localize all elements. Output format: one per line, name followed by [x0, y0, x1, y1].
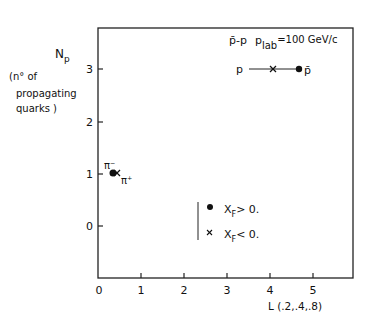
chart-title: p̄-pplab=100 GeV/c	[229, 34, 337, 51]
pi-plus-label: π⁺	[121, 175, 132, 186]
y-tick-0: 0	[86, 220, 93, 233]
y-axis-label: Np	[55, 47, 70, 64]
y-label-note-3: quarks )	[16, 103, 57, 114]
chart: 3 2 1 0 0 1 2 3 4 5 L (.2,.4,.8) Np (n° …	[0, 0, 369, 324]
legend-item-xf-neg: XF< 0.	[224, 228, 259, 244]
x-tick-2: 2	[181, 284, 188, 297]
pi-minus-label: π⁻	[104, 160, 115, 171]
legend-dot-icon	[207, 204, 213, 210]
x-tick-4: 4	[267, 284, 274, 297]
x-ticks	[141, 273, 313, 278]
y-tick-2: 2	[86, 116, 93, 129]
x-tick-1: 1	[138, 284, 145, 297]
legend-item-xf-pos: XF> 0.	[224, 203, 259, 219]
y-label-note-1: (n° of	[9, 71, 38, 82]
y-tick-1: 1	[86, 168, 93, 181]
dot-marker-pbar	[296, 66, 302, 72]
y-tick-3: 3	[86, 63, 93, 76]
legend-cross-icon	[207, 230, 212, 235]
legend: XF> 0. XF< 0.	[198, 202, 259, 244]
x-tick-3: 3	[224, 284, 231, 297]
p-label: p	[236, 63, 243, 76]
x-tick-0: 0	[96, 284, 103, 297]
pbar-label: p̄	[304, 64, 311, 77]
x-tick-5: 5	[310, 284, 317, 297]
y-ticks	[98, 69, 103, 226]
x-axis-label: L (.2,.4,.8)	[268, 300, 322, 312]
y-label-note-2: propagating	[16, 88, 77, 99]
